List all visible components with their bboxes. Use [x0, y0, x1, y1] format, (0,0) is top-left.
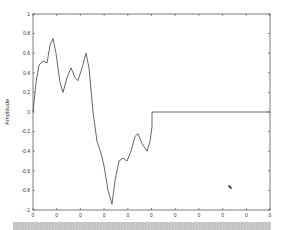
x-tick-label: 0 [79, 212, 82, 218]
x-tick-label: 0 [103, 212, 106, 218]
x-tick-label: 0 [174, 212, 177, 218]
line-chart: -1-0.8-0.6-0.4-0.200.20.40.60.81 0000000… [0, 0, 281, 222]
x-tick-label: 0 [126, 212, 129, 218]
x-tick-label: 0 [55, 212, 58, 218]
y-tick-label: 0.8 [23, 30, 30, 36]
y-tick-label: 0.2 [23, 89, 30, 95]
x-tick-label: 0 [221, 212, 224, 218]
y-tick-label: 0.4 [23, 70, 30, 76]
y-tick-label: -0.2 [21, 128, 30, 134]
x-tick-label: 0 [32, 212, 35, 218]
y-tick-label: 0 [27, 109, 30, 115]
x-tick-label: 0 [269, 212, 272, 218]
x-tick-label: 0 [245, 212, 248, 218]
y-tick-label: -0.4 [21, 148, 30, 154]
y-tick-label: -0.6 [21, 168, 30, 174]
bottom-scrollbar [13, 222, 271, 230]
y-tick-label: 0.6 [23, 50, 30, 56]
y-tick-label: 1 [27, 11, 30, 17]
y-axis-label: Amplitude [4, 98, 10, 125]
x-tick-label: 0 [150, 212, 153, 218]
y-tick-label: -0.8 [21, 187, 30, 193]
x-tick-label: 0 [198, 212, 201, 218]
y-tick-label: -1 [26, 207, 31, 213]
